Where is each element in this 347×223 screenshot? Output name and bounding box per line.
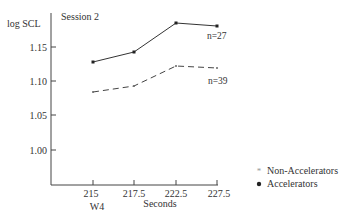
x-axis-label: Seconds — [143, 198, 176, 209]
legend-label: Non-Accelerators — [267, 165, 338, 176]
series-accelerators-markers — [92, 22, 219, 64]
ytick-label: 1.05 — [30, 110, 48, 121]
x-ticks — [93, 180, 217, 185]
filled-dot-icon — [257, 182, 261, 186]
annotation-n27: n=27 — [207, 31, 227, 41]
y-ticks — [51, 47, 56, 150]
series-accelerators-line — [93, 23, 217, 62]
series-non-accelerators-line — [93, 66, 217, 92]
series-non-accelerators-markers — [92, 65, 218, 93]
xtick-label: 227.5 — [208, 188, 231, 199]
annotation-n39: n=39 — [208, 76, 228, 86]
xtick-label: 215 — [84, 188, 99, 199]
asterisk-icon: * — [257, 166, 262, 176]
chart-title: Session 2 — [61, 11, 99, 22]
x-sublabel: W4 — [90, 201, 104, 212]
ytick-label: 1.00 — [30, 145, 48, 156]
y-axis-label: log SCL — [7, 18, 41, 29]
legend-label: Accelerators — [267, 178, 318, 189]
xtick-label: 217.5 — [123, 188, 146, 199]
legend: * Non-Accelerators Accelerators — [257, 165, 338, 189]
ytick-label: 1.15 — [30, 42, 48, 53]
chart: 1.15 1.10 1.05 1.00 215 217.5 222.5 227.… — [0, 0, 347, 223]
ytick-label: 1.10 — [30, 76, 48, 87]
